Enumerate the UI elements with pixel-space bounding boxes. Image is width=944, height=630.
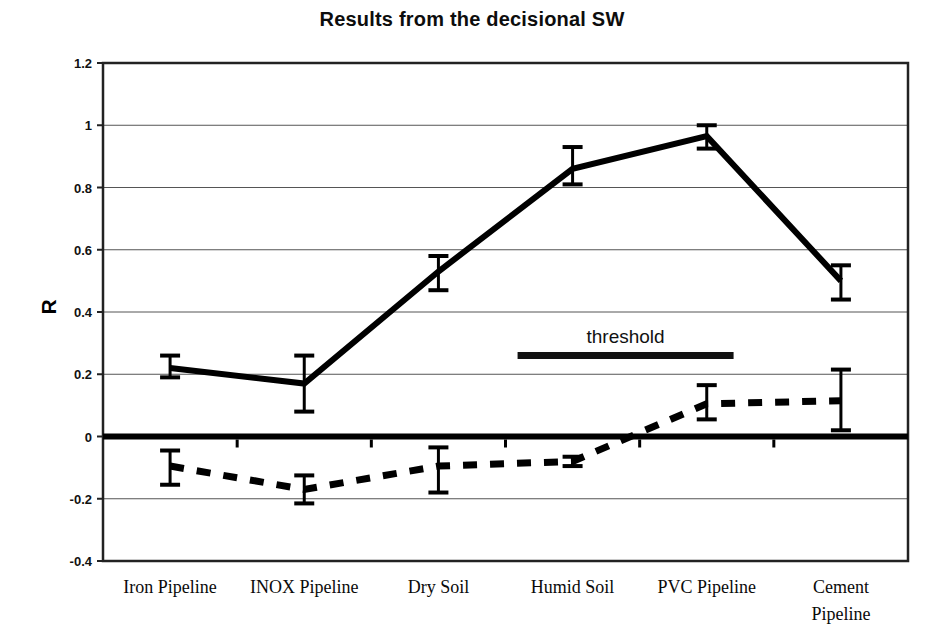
series-solid <box>170 136 841 383</box>
svg-text:Iron Pipeline: Iron Pipeline <box>123 577 216 597</box>
zero-axis-line <box>103 437 908 448</box>
gridlines <box>103 125 908 561</box>
svg-text:0.8: 0.8 <box>74 181 92 196</box>
chart-plot-area: -0.4-0.200.20.40.60.811.2 threshold Iron… <box>0 0 944 630</box>
svg-text:0.6: 0.6 <box>74 243 92 258</box>
svg-text:-0.2: -0.2 <box>70 492 92 507</box>
svg-text:0.2: 0.2 <box>74 367 92 382</box>
threshold-annotation: threshold <box>518 326 734 356</box>
svg-text:INOX Pipeline: INOX Pipeline <box>250 577 358 597</box>
svg-text:0.4: 0.4 <box>74 305 93 320</box>
svg-text:-0.4: -0.4 <box>70 554 93 569</box>
chart-figure: Results from the decisional SW -0.4-0.20… <box>0 0 944 630</box>
x-axis-category-labels: Iron PipelineINOX PipelineDry SoilHumid … <box>123 577 870 624</box>
svg-text:threshold: threshold <box>586 326 664 347</box>
svg-text:R: R <box>37 299 60 314</box>
y-axis-title: R <box>37 299 60 314</box>
svg-text:PVC Pipeline: PVC Pipeline <box>657 577 756 597</box>
svg-text:Humid Soil: Humid Soil <box>531 577 615 597</box>
svg-text:1: 1 <box>85 118 92 133</box>
svg-text:1.2: 1.2 <box>74 56 92 71</box>
svg-text:Cement: Cement <box>813 577 869 597</box>
svg-text:0: 0 <box>85 430 92 445</box>
y-axis-ticks: -0.4-0.200.20.40.60.811.2 <box>70 56 103 569</box>
svg-text:Pipeline: Pipeline <box>811 604 870 624</box>
svg-text:Dry Soil: Dry Soil <box>408 577 470 597</box>
